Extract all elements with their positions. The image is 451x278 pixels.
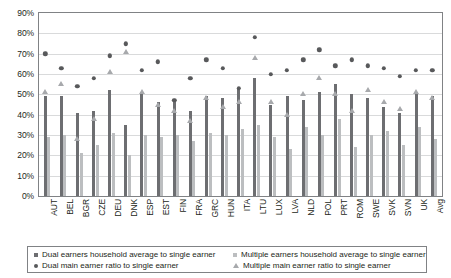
marker-dual-main-earner-ratio [269, 72, 273, 76]
bar-multiple-earners-household-average [289, 149, 292, 196]
marker-multiple-main-earner-ratio [203, 95, 209, 100]
bar-dual-earners-household-average [221, 98, 224, 196]
bar-dual-earners-household-average [140, 92, 143, 196]
bar-multiple-earners-household-average [273, 137, 276, 196]
x-axis-tick-label: POL [324, 199, 333, 216]
bar-multiple-earners-household-average [386, 131, 389, 196]
marker-dual-main-earner-ratio [349, 58, 353, 62]
x-axis-tick-label: LUX [275, 199, 284, 215]
chart-category-group [71, 13, 87, 196]
bar-multiple-earners-household-average [112, 133, 115, 196]
bar-multiple-earners-household-average [354, 147, 357, 196]
marker-dual-main-earner-ratio [108, 54, 112, 58]
chart-category-group [249, 13, 265, 196]
marker-dual-main-earner-ratio [285, 68, 289, 72]
marker-dual-main-earner-ratio [301, 58, 305, 62]
chart-category-group [55, 13, 71, 196]
chart-category-group [200, 13, 216, 196]
chart-category-group [87, 13, 103, 196]
marker-dual-main-earner-ratio [398, 74, 402, 78]
x-axis-tick-label: LTU [259, 199, 268, 214]
x-axis-tick-label: LVA [291, 199, 300, 214]
x-axis-tick-label: HUN [227, 199, 236, 217]
bar-dual-earners-household-average [431, 96, 434, 196]
bar-multiple-earners-household-average [128, 155, 131, 196]
bar-dual-earners-household-average [253, 78, 256, 196]
chart-plot-area [38, 12, 443, 197]
chart-category-group [136, 13, 152, 196]
x-axis-tick-label: EST [162, 199, 171, 215]
bar-dual-earners-household-average [398, 113, 401, 196]
bar-multiple-earners-household-average [209, 133, 212, 196]
y-axis-tick-label: 30% [17, 131, 34, 140]
legend-item: Dual main earner ratio to single earner [34, 261, 179, 270]
chart-category-group [410, 13, 426, 196]
legend-item: Multiple earners household average to si… [233, 250, 426, 259]
marker-multiple-main-earner-ratio [300, 91, 306, 96]
bar-dual-earners-household-average [157, 102, 160, 196]
y-axis-tick-label: 0% [22, 192, 34, 201]
legend-item: Dual earners household average to single… [34, 250, 215, 259]
bar-dual-earners-household-average [366, 98, 369, 196]
marker-multiple-main-earner-ratio [220, 104, 226, 109]
chart-category-group [394, 13, 410, 196]
x-axis-tick-label: FRA [195, 199, 204, 216]
legend-square-dark-icon [34, 253, 38, 257]
bar-multiple-earners-household-average [176, 135, 179, 196]
marker-multiple-main-earner-ratio [252, 55, 258, 60]
marker-multiple-main-earner-ratio [284, 112, 290, 117]
x-axis-tick-label: ESP [146, 199, 155, 216]
bar-dual-earners-household-average [189, 111, 192, 196]
x-axis-tick-label: BEL [66, 199, 75, 215]
bar-multiple-earners-household-average [47, 137, 50, 196]
marker-multiple-main-earner-ratio [268, 99, 274, 104]
x-axis-tick-label: DEU [114, 199, 123, 217]
chart-category-group [281, 13, 297, 196]
bar-multiple-earners-household-average [257, 125, 260, 196]
bar-dual-earners-household-average [173, 100, 176, 196]
marker-dual-main-earner-ratio [188, 76, 192, 80]
bar-dual-earners-household-average [269, 105, 272, 197]
x-axis-tick-label: UK [420, 199, 429, 211]
y-axis-tick-label: 90% [17, 9, 34, 18]
chart-category-group [120, 13, 136, 196]
x-axis-tick-label: ITA [243, 199, 252, 211]
chart-category-group [378, 13, 394, 196]
marker-dual-main-earner-ratio [124, 41, 128, 45]
x-axis-tick-label: Avg [436, 199, 445, 213]
x-axis-tick-label: SVK [388, 199, 397, 216]
chart-category-group [168, 13, 184, 196]
bar-dual-earners-household-average [318, 92, 321, 196]
bar-dual-earners-household-average [124, 125, 127, 196]
bar-multiple-earners-household-average [305, 127, 308, 196]
marker-dual-main-earner-ratio [430, 68, 434, 72]
bar-multiple-earners-household-average [321, 135, 324, 196]
chart-category-group [39, 13, 55, 196]
x-axis-tick-label: NLD [307, 199, 316, 216]
marker-multiple-main-earner-ratio [58, 81, 64, 86]
bar-multiple-earners-household-average [338, 119, 341, 196]
chart-category-group [297, 13, 313, 196]
marker-dual-main-earner-ratio [75, 84, 79, 88]
marker-multiple-main-earner-ratio [74, 136, 80, 141]
y-axis-tick-label: 10% [17, 171, 34, 180]
marker-multiple-main-earner-ratio [236, 99, 242, 104]
legend-square-light-icon [233, 253, 237, 257]
marker-multiple-main-earner-ratio [332, 91, 338, 96]
bar-dual-earners-household-average [44, 96, 47, 196]
chart-legend: Dual earners household average to single… [27, 246, 427, 273]
x-axis-tick-label: SVN [404, 199, 413, 216]
chart-category-group [184, 13, 200, 196]
x-axis-tick-label: SWE [372, 199, 381, 218]
marker-multiple-main-earner-ratio [397, 106, 403, 111]
marker-dual-main-earner-ratio [414, 68, 418, 72]
bar-dual-earners-household-average [108, 90, 111, 196]
chart-category-group [216, 13, 232, 196]
legend-item-label: Multiple earners household average to si… [241, 250, 426, 259]
legend-triangle-icon [233, 263, 239, 268]
marker-multiple-main-earner-ratio [365, 87, 371, 92]
marker-dual-main-earner-ratio [236, 86, 240, 90]
bar-multiple-earners-household-average [418, 127, 421, 196]
bar-dual-earners-household-average [76, 113, 79, 196]
y-axis-tick-label: 50% [17, 90, 34, 99]
